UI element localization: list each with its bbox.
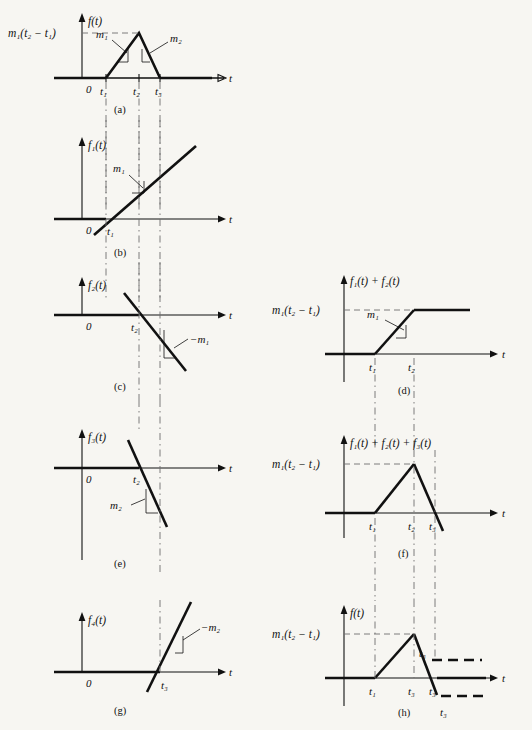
panel-a-tick-label-t3: t₃ [155,85,162,97]
panel-a: f(t) m₁(t₂ − t₁) 0 t₁ t₂ t₃ t m₁ m₂ (a) [8,13,233,205]
panel-c-x-axis-label: t [229,309,233,321]
panel-b-y-axis-label: f₁(t) [88,139,106,152]
panel-e: f₃(t) 0 t₂ t m₂ (e) [54,400,233,575]
panel-e-origin-label: 0 [86,473,92,485]
panel-h-tick-label-t1: t₁ [369,685,376,697]
panel-d: f₁(t) + f₂(t) m₁(t₂ − t₁) t₁ t₂ t m₁ (d) [272,275,506,450]
panel-d-peak-label: m₁(t₂ − t₁) [272,304,320,317]
panel-h-x-axis-label: t [502,672,506,684]
panel-f-peak-label: m₁(t₂ − t₁) [272,458,320,471]
panel-e-tick-label-t2: t₂ [133,473,140,485]
panel-a-pulse [106,33,160,78]
panel-c: f₂(t) 0 t₂ t −m₁ (c) [54,262,233,400]
panel-h-rise [375,634,414,678]
panel-a-leader-m1 [112,40,127,53]
panel-f-caption: (f) [398,548,409,560]
panel-f-y-arrow [341,435,348,444]
panel-a-caption: (a) [114,104,126,116]
panel-a-peak-label: m₁(t₂ − t₁) [8,27,56,40]
panel-b-tick-label-t1: t₁ [107,225,114,237]
panel-h-tick-label-t3a: t₃ [408,685,415,697]
panel-h-peak-label: m₁(t₂ − t₁) [272,628,320,641]
panel-f-x-axis-label: t [502,507,506,519]
panel-h-y-axis-label: f(t) [350,607,364,620]
panel-d-tick-label-t2: t₂ [408,361,415,373]
panel-f-tick-label-t1: t₁ [369,520,376,532]
panel-g: f₄(t) 0 t₃ t −m₂ (g) [54,600,233,717]
panel-c-caption: (c) [114,381,126,393]
panel-a-slope-label-m2: m₂ [170,32,182,44]
panel-a-tick-label-t2: t₂ [133,85,140,97]
panel-b-y-arrow [79,137,86,146]
panel-g-leader [183,629,200,640]
panel-h-caption: (h) [398,707,411,719]
panel-c-origin-label: 0 [86,320,92,332]
panel-g-y-axis-label: f₄(t) [88,614,106,627]
panel-f-rise [375,464,414,513]
panel-g-x-arrow [218,669,226,676]
panel-a-y-arrow [79,13,86,22]
panel-d-slope-label: m₁ [367,308,379,320]
panel-a-slope-label-m1: m₁ [96,28,108,40]
panel-f-tick-label-t2: t₂ [408,520,415,532]
panel-b-slope-label: m₁ [113,162,125,174]
panel-d-y-axis-label: f₁(t) + f₂(t) [350,275,400,288]
panel-c-y-axis-label: f₂(t) [88,279,106,292]
panel-g-caption: (g) [114,705,127,717]
panel-h-label-t3-upper: t₃ [419,647,426,659]
panel-d-tick-label-t1: t₁ [369,361,376,373]
panel-a-y-axis-label: f(t) [88,15,102,28]
diagram-canvas: f(t) m₁(t₂ − t₁) 0 t₁ t₂ t₃ t m₁ m₂ (a) … [0,0,532,730]
panel-a-tick-label-t1: t₁ [100,85,107,97]
panel-h-label-t3-lower: t₃ [440,706,447,718]
panel-g-y-arrow [79,612,86,621]
panel-c-leader [174,339,188,348]
panel-f-y-axis-label: f₁(t) + f₂(t) + f₃(t) [350,437,431,450]
panel-e-y-axis-label: f₃(t) [88,431,106,444]
figure-ramp-decomposition: f(t) m₁(t₂ − t₁) 0 t₁ t₂ t₃ t m₁ m₂ (a) … [0,0,532,730]
panel-e-x-arrow [218,465,226,472]
panel-c-slope-label: −m₁ [190,333,209,345]
panel-g-tick-label-t3: t₃ [161,679,168,691]
panel-c-x-arrow [218,312,226,319]
panel-b-leader [129,175,143,188]
panel-g-origin-label: 0 [86,677,92,689]
panel-h-tick-label-t3b: t₃ [429,685,436,697]
panel-c-tick-label-t2: t₂ [131,321,138,333]
panel-b-ramp [94,146,196,235]
panel-f-tick-label-t3: t₃ [429,520,436,532]
panel-e-caption: (e) [114,558,126,570]
panel-e-x-axis-label: t [229,462,233,474]
panel-e-y-arrow [79,429,86,438]
panel-b-origin-label: 0 [86,224,92,236]
panel-f-x-arrow [490,510,498,517]
panel-d-ramp [375,310,414,354]
panel-h: f(t) m₁(t₂ − t₁) t₁ t₃ t₃ t₃ t₃ t (h) [272,600,506,719]
panel-d-y-arrow [341,275,348,284]
panel-g-slope-tri [175,636,183,653]
panel-b-x-axis-label: t [229,213,233,225]
panel-g-slope-label: −m₂ [201,621,220,633]
panel-e-leader [131,499,145,505]
panel-g-ramp [147,602,191,692]
panel-g-x-axis-label: t [229,666,233,678]
panel-b-x-arrow [218,216,226,223]
panel-d-x-axis-label: t [502,348,506,360]
panel-a-x-axis-label: t [229,72,233,84]
panel-d-caption: (d) [398,385,411,397]
panel-f: f₁(t) + f₂(t) + f₃(t) m₁(t₂ − t₁) t₁ t₂ … [272,435,506,600]
panel-e-slope-label: m₂ [110,499,122,511]
panel-a-leader-m2 [150,42,168,53]
panel-d-x-arrow [490,351,498,358]
panel-h-y-arrow [341,605,348,614]
panel-b-caption: (b) [114,247,127,259]
panel-a-origin-label: 0 [86,83,92,95]
panel-h-x-arrow [490,675,498,682]
panel-b: f₁(t) 0 t₁ t m₁ (b) [54,120,233,300]
panel-c-y-arrow [79,277,86,286]
